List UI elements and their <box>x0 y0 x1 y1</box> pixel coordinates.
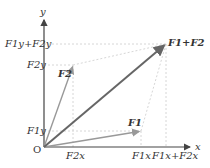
x-tick-f1x-plus-f2x: F1x+F2x <box>152 151 198 161</box>
vector-diagram: y x O F1y+F2y F2y F1y F2x F1x F1x+F2x F2… <box>0 0 210 168</box>
diagram-graphics <box>0 0 210 168</box>
origin-label: O <box>33 145 41 155</box>
y-tick-f1y: F1y <box>27 126 46 136</box>
vector-f1-label: F1 <box>128 118 142 128</box>
vector-sum-label: F1+F2 <box>168 38 205 48</box>
y-axis-label: y <box>40 7 46 17</box>
x-tick-f1x: F1x <box>132 151 151 161</box>
x-tick-f2x: F2x <box>66 151 85 161</box>
vector-f2-label: F2 <box>58 69 72 79</box>
y-tick-f1y-plus-f2y: F1y+F2y <box>5 39 51 49</box>
y-tick-f2y: F2y <box>27 60 46 70</box>
